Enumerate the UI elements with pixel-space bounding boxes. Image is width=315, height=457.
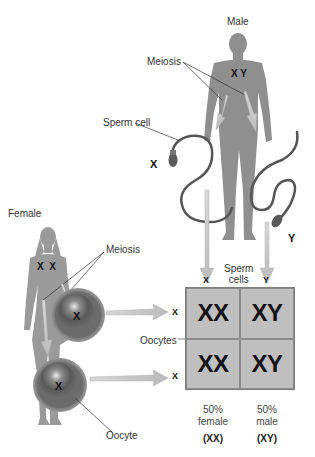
sperm-x-chromosome: X [150,158,157,170]
result-female-sex: female [188,416,238,428]
female-label: Female [8,208,41,219]
punnett-cell-xy-2: XY [240,339,294,390]
male-meiosis-label: Meiosis [147,56,181,67]
result-female-genotype: (XX) [188,433,238,445]
sperm-cell-label: Sperm cell [103,117,150,128]
female-chromosomes: X X [37,261,56,272]
punnett-cell-xx-1: XX [186,288,240,339]
sperm-cells-header-line2: cells [224,274,253,285]
result-male-genotype: (XY) [242,433,292,445]
sperm-x-head [169,150,178,167]
column-header-y: Y [263,275,269,285]
column-header-x: X [203,275,209,285]
oocyte-pointer [75,398,112,432]
row-header-x-2: X [172,371,178,381]
oocyte-2-chromosome: X [55,380,62,392]
result-female-percent: 50% [188,404,238,416]
oocyte-1-chromosome: X [73,310,80,322]
oocytes-row-label: Oocytes [140,335,177,346]
result-female: 50% female (XX) [188,404,238,445]
sperm-y [251,132,297,218]
male-label: Male [227,16,249,27]
oocyte-label: Oocyte [106,430,138,441]
punnett-cell-xy-1: XY [240,288,294,339]
result-male-percent: 50% [242,404,292,416]
result-male: 50% male (XY) [242,404,292,445]
female-meiosis-label: Meiosis [106,244,140,255]
punnett-square: XX XY XX XY [185,287,295,390]
sperm-cells-header-line1: Sperm [224,263,253,274]
sperm-cells-header: Sperm cells [224,263,253,285]
male-chromosomes: X Y [231,68,247,79]
sperm-y-chromosome: Y [288,232,295,244]
result-male-sex: male [242,416,292,428]
row-header-x-1: X [172,307,178,317]
punnett-cell-xx-2: XX [186,339,240,390]
